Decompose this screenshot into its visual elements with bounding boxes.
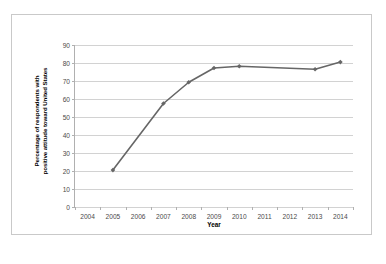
x-tick-label: 2011 bbox=[257, 213, 271, 220]
x-tick-label: 2010 bbox=[232, 213, 247, 220]
data-series-line bbox=[75, 45, 353, 207]
x-axis-title: Year bbox=[75, 221, 353, 228]
x-tick-label: 2014 bbox=[333, 213, 348, 220]
x-tick-label: 2008 bbox=[181, 213, 196, 220]
data-point-marker bbox=[313, 67, 318, 72]
x-tick-mark bbox=[302, 207, 303, 210]
y-tick-label: 70 bbox=[63, 78, 70, 85]
data-point-marker bbox=[237, 64, 242, 69]
x-tick-mark bbox=[176, 207, 177, 210]
x-tick-mark bbox=[252, 207, 253, 210]
x-tick-label: 2007 bbox=[156, 213, 171, 220]
y-tick-label: 90 bbox=[63, 42, 70, 49]
y-tick-label: 30 bbox=[63, 150, 70, 157]
x-tick-label: 2013 bbox=[308, 213, 323, 220]
x-tick-mark bbox=[75, 207, 76, 210]
y-tick-label: 10 bbox=[63, 186, 70, 193]
gridline bbox=[75, 207, 353, 208]
x-tick-mark bbox=[277, 207, 278, 210]
plot-area: 0102030405060708090 20042005200620072008… bbox=[75, 45, 353, 207]
y-tick-label: 50 bbox=[63, 114, 70, 121]
x-tick-label: 2005 bbox=[106, 213, 121, 220]
y-tick-label: 20 bbox=[63, 168, 70, 175]
x-tick-mark bbox=[353, 207, 354, 210]
x-tick-mark bbox=[100, 207, 101, 210]
y-tick-label: 80 bbox=[63, 60, 70, 67]
plot-wrapper: 0102030405060708090 20042005200620072008… bbox=[12, 15, 371, 234]
x-tick-mark bbox=[126, 207, 127, 210]
x-tick-mark bbox=[328, 207, 329, 210]
x-tick-label: 2006 bbox=[131, 213, 146, 220]
x-tick-label: 2009 bbox=[207, 213, 222, 220]
y-tick-label: 60 bbox=[63, 96, 70, 103]
x-tick-label: 2004 bbox=[80, 213, 95, 220]
y-tick-label: 0 bbox=[66, 204, 70, 211]
x-tick-mark bbox=[227, 207, 228, 210]
series-polyline bbox=[113, 62, 340, 170]
x-tick-label: 2012 bbox=[282, 213, 297, 220]
x-tick-mark bbox=[151, 207, 152, 210]
data-point-marker bbox=[338, 60, 343, 65]
chart-figure: Percentage of respondents with positive … bbox=[11, 14, 372, 235]
x-tick-mark bbox=[201, 207, 202, 210]
y-tick-label: 40 bbox=[63, 132, 70, 139]
